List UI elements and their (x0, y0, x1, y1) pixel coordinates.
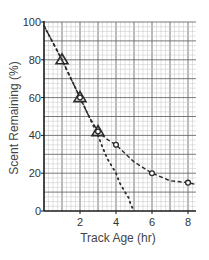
x-tick-label: 8 (185, 216, 191, 228)
circle-marker (96, 129, 101, 134)
y-tick-label: 80 (29, 54, 41, 66)
x-axis-title: Track Age (hr) (80, 231, 156, 245)
circle-marker (150, 171, 155, 176)
y-tick-label: 60 (29, 92, 41, 104)
data-series (44, 26, 196, 211)
y-tick-label: 20 (29, 167, 41, 179)
circle-marker (114, 142, 119, 147)
y-tick-label: 100 (23, 16, 41, 28)
x-tick-labels: 2468 (77, 211, 191, 228)
chart: 2468 020406080100 Track Age (hr) Scent R… (0, 0, 209, 260)
y-tick-label: 0 (35, 205, 41, 217)
x-tick-label: 2 (77, 216, 83, 228)
circle-marker (186, 180, 191, 185)
x-tick-label: 4 (113, 216, 119, 228)
circle-marker (78, 95, 83, 100)
y-tick-label: 40 (29, 129, 41, 141)
y-tick-labels: 020406080100 (23, 16, 44, 217)
dashed-curve (44, 26, 196, 185)
x-tick-label: 6 (149, 216, 155, 228)
y-axis-title: Scent Remaining (%) (7, 61, 21, 174)
